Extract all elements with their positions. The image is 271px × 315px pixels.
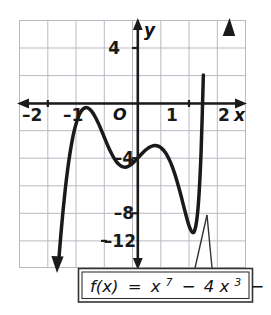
y-tick-label--12: –12 (104, 231, 136, 251)
x-axis-label: x (233, 105, 246, 125)
formula-term1-base: x (150, 277, 161, 296)
formula-minus-2: − (251, 277, 265, 296)
y-tick-label-4: 4 (108, 38, 120, 58)
y-axis-label: y (144, 20, 156, 40)
x-tick-label--2: –2 (22, 105, 42, 125)
origin-label: O (113, 105, 127, 124)
polynomial-graph-figure: –2 –1 1 2 4 –4 –8 –12 x y O (0, 0, 270, 315)
formula-term2-coefficient: 4 (204, 277, 215, 296)
y-tick-label--8: –8 (114, 203, 134, 223)
formula-term2-base: x (219, 277, 230, 296)
formula-term1-exponent: 7 (166, 276, 173, 288)
x-tick-label-1: 1 (166, 105, 178, 125)
x-tick-label-2: 2 (218, 105, 230, 125)
formula-term2-exponent: 3 (235, 276, 242, 288)
formula-fx: f(x) (90, 277, 118, 296)
formula-callout: f(x) = x 7 − 4 x 3 − 5 (79, 269, 271, 303)
formula-equals: = (128, 277, 142, 296)
formula-minus-1: − (182, 277, 196, 296)
graph-svg: –2 –1 1 2 4 –4 –8 –12 x y O (0, 0, 270, 315)
